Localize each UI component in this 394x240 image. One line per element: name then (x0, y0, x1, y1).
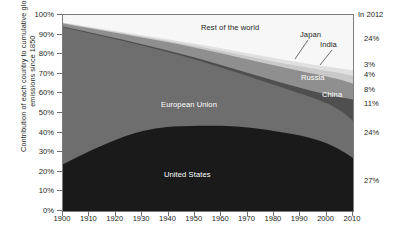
value-rest-of-the-world: 24% (364, 34, 379, 43)
value-european-union: 24% (364, 128, 379, 137)
x-tick-mark-1950 (194, 211, 195, 216)
x-tick-mark-1990 (299, 211, 300, 216)
x-axis-ticks: 1900 1910 1920 1930 1940 1950 1960 1970 … (0, 0, 394, 240)
x-tick-mark-1960 (220, 211, 221, 216)
x-tick-mark-1980 (273, 211, 274, 216)
value-russia: 8% (364, 85, 375, 94)
stacked-area-chart: Contribution of each country to cumulati… (0, 0, 394, 240)
x-tick-mark-1900 (62, 211, 63, 216)
x-tick-mark-1940 (168, 211, 169, 216)
x-tick-mark-1910 (88, 211, 89, 216)
value-india: 4% (364, 69, 375, 78)
in-2012-value-column: In 2012 24% 3% 4% 8% 11% 24% 27% (358, 0, 394, 240)
x-tick-mark-2000 (326, 211, 327, 216)
value-china: 11% (364, 99, 379, 108)
x-tick-mark-1930 (141, 211, 142, 216)
value-japan: 3% (364, 60, 375, 69)
value-united-states: 27% (364, 176, 379, 185)
x-tick-mark-1970 (247, 211, 248, 216)
in-2012-header: In 2012 (358, 10, 383, 19)
x-tick-mark-2010 (352, 211, 353, 216)
x-tick-mark-1920 (115, 211, 116, 216)
